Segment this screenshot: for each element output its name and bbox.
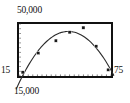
fitted-curve <box>16 31 114 89</box>
y-axis-tick <box>20 24 21 25</box>
y-axis-tick <box>20 33 21 34</box>
x-axis-tick <box>19 75 20 76</box>
y-axis-tick <box>20 38 21 39</box>
y-axis-tick <box>20 66 21 67</box>
y-axis-tick <box>20 28 21 29</box>
data-point-marker <box>95 45 98 48</box>
data-point-marker <box>107 68 110 71</box>
x-axis-tick <box>32 75 33 76</box>
y-axis-tick <box>20 52 21 53</box>
y-axis-tick <box>20 61 21 62</box>
plot-canvas <box>0 0 130 103</box>
x-axis-tick <box>92 75 93 76</box>
x-axis-tick <box>37 75 38 76</box>
x-axis-tick <box>78 75 79 76</box>
x-axis-tick <box>97 75 98 76</box>
data-point-layer <box>21 26 110 74</box>
x-axis-tick <box>106 75 107 76</box>
data-point-marker <box>82 26 85 29</box>
x-axis-tick <box>83 75 84 76</box>
x-axis-tick <box>101 75 102 76</box>
x-axis-tick <box>42 75 43 76</box>
x-axis-tick <box>51 75 52 76</box>
x-axis-tick <box>74 75 75 76</box>
x-axis-tick <box>111 75 112 76</box>
x-axis-tick <box>69 75 70 76</box>
y-axis-tick <box>20 47 21 48</box>
x-axis-tick <box>55 75 56 76</box>
y-axis-tick <box>20 76 21 77</box>
x-axis-tick <box>28 75 29 76</box>
data-point-marker <box>68 31 71 34</box>
y-axis-tick <box>20 42 21 43</box>
data-point-marker <box>21 71 24 74</box>
x-axis-tick <box>60 75 61 76</box>
x-axis-tick <box>46 75 47 76</box>
data-point-marker <box>54 39 57 42</box>
y-axis-tick <box>20 71 21 72</box>
x-axis-tick <box>88 75 89 76</box>
x-axis-tick <box>65 75 66 76</box>
y-axis-tick <box>20 57 21 58</box>
data-point-marker <box>37 52 40 55</box>
chart-figure: 50,000 15 75 15,000 <box>0 0 130 103</box>
